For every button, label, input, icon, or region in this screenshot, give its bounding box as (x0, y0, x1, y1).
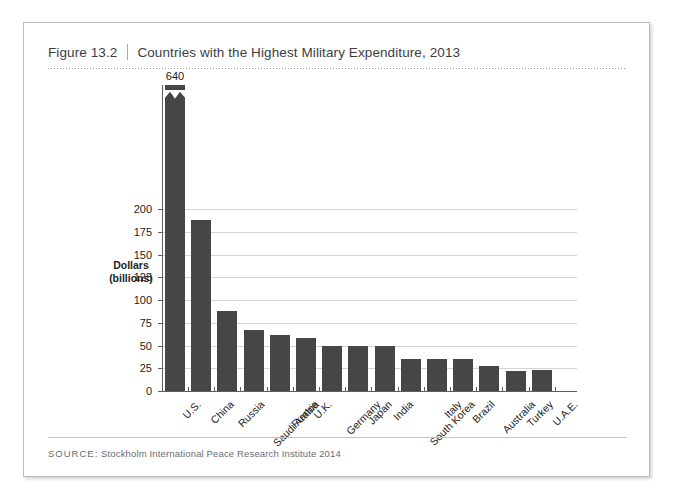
x-tick-mark (293, 387, 294, 391)
x-tick-mark (424, 387, 425, 391)
y-tick-label: 150 (110, 249, 152, 261)
x-tick-mark (345, 387, 346, 391)
source-note: SOURCE: Stockholm International Peace Re… (48, 448, 341, 459)
y-tick-label: 50 (110, 340, 152, 352)
y-tick-mark (158, 300, 162, 301)
x-tick-mark (267, 387, 268, 391)
source-label: SOURCE: (48, 448, 98, 459)
bar[interactable] (375, 346, 395, 391)
x-axis-label: Brazil (470, 398, 497, 425)
bar[interactable] (348, 346, 368, 392)
figure-card: Figure 13.2 Countries with the Highest M… (23, 22, 650, 477)
bar[interactable] (165, 85, 185, 391)
x-tick-mark (450, 387, 451, 391)
x-tick-mark (214, 387, 215, 391)
y-tick-mark (158, 346, 162, 347)
x-axis-label: U.A.E. (550, 398, 580, 428)
gridline (163, 232, 577, 233)
bar[interactable] (217, 311, 237, 391)
x-axis-line (162, 391, 577, 392)
gridline (163, 300, 577, 301)
bar-chart: Dollars (billions) 025507510012515017520… (24, 23, 651, 433)
y-tick-label: 75 (110, 317, 152, 329)
y-tick-mark (158, 209, 162, 210)
bar[interactable] (296, 338, 316, 391)
x-axis-label: Russia (236, 398, 267, 429)
x-tick-mark (529, 387, 530, 391)
y-tick-label: 100 (110, 294, 152, 306)
y-tick-mark (158, 323, 162, 324)
bar-value-label: 640 (166, 70, 184, 82)
y-tick-label: 175 (110, 226, 152, 238)
bar[interactable] (401, 359, 421, 391)
y-tick-label: 125 (110, 271, 152, 283)
x-tick-mark (555, 387, 556, 391)
y-tick-label: 200 (110, 203, 152, 215)
bar[interactable] (479, 366, 499, 391)
bar[interactable] (191, 220, 211, 391)
x-axis-label: India (390, 398, 415, 423)
x-tick-mark (188, 387, 189, 391)
y-tick-mark (158, 232, 162, 233)
y-tick-mark (158, 391, 162, 392)
y-tick-label: 25 (110, 362, 152, 374)
bar[interactable] (506, 371, 526, 391)
x-axis-label: China (208, 398, 236, 426)
bar[interactable] (322, 346, 342, 392)
x-tick-mark (319, 387, 320, 391)
bar[interactable] (270, 335, 290, 391)
y-axis-title-line1: Dollars (100, 259, 162, 272)
x-tick-mark (371, 387, 372, 391)
x-axis-label: U.S. (180, 398, 203, 421)
axis-break-icon (165, 90, 185, 104)
gridline (163, 277, 577, 278)
gridline (163, 255, 577, 256)
bar[interactable] (532, 370, 552, 391)
gridline (163, 209, 577, 210)
y-tick-mark (158, 255, 162, 256)
bar[interactable] (453, 359, 473, 391)
bar[interactable] (244, 330, 264, 391)
bar[interactable] (427, 359, 447, 391)
x-tick-mark (240, 387, 241, 391)
x-tick-mark (398, 387, 399, 391)
x-tick-mark (502, 387, 503, 391)
y-tick-mark (158, 368, 162, 369)
source-divider (48, 437, 627, 438)
x-tick-mark (476, 387, 477, 391)
y-tick-mark (158, 277, 162, 278)
source-text: Stockholm International Peace Research I… (101, 448, 341, 459)
y-tick-label: 0 (110, 385, 152, 397)
